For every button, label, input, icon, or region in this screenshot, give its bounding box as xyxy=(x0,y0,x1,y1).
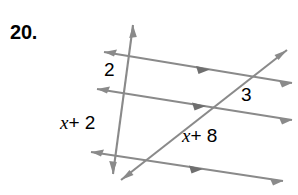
label-segment-x-plus-8-operand: + 8 xyxy=(190,125,217,146)
label-segment-2: 2 xyxy=(104,60,115,79)
parallel-line-middle xyxy=(97,87,292,125)
parallel-marker-middle-line xyxy=(192,103,206,111)
label-segment-x-plus-2: x+ 2 xyxy=(60,113,95,132)
geometry-figure: 20. 2 x+ 2 3 x+ 8 xyxy=(0,0,298,195)
label-segment-x-plus-8: x+ 8 xyxy=(182,126,217,145)
parallel-line-bottom-stroke xyxy=(91,152,283,181)
problem-number: 20. xyxy=(10,22,37,42)
label-segment-x-plus-2-operand: + 2 xyxy=(68,112,95,133)
arrowhead-top-transversal-vertical xyxy=(129,25,137,38)
parallel-marker-bottom-line xyxy=(189,166,203,174)
transversal-vertical-stroke xyxy=(113,25,133,174)
parallel-marker-top-line xyxy=(196,66,210,74)
label-segment-3: 3 xyxy=(241,85,252,104)
geometry-diagram xyxy=(0,0,298,195)
parallel-line-bottom xyxy=(91,150,283,186)
transversal-vertical xyxy=(109,25,137,174)
arrowhead-bottom-transversal-vertical xyxy=(109,161,117,174)
